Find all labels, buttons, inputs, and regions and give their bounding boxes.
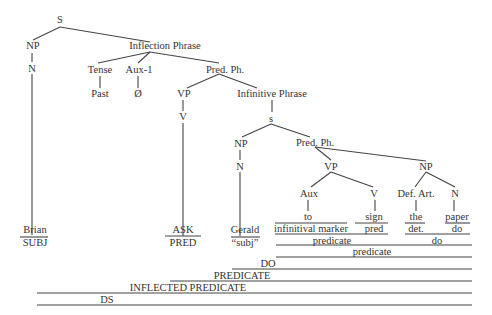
node-vp-2: VP <box>324 161 337 173</box>
leaf-role-infinitival-marker: infinitival marker <box>274 223 348 235</box>
leaf-word-brian: Brian <box>23 224 46 236</box>
node-aux-1: Aux-1 <box>126 64 153 76</box>
node-v-2: V <box>370 188 378 200</box>
leaf-role-pred: PRED <box>170 237 197 249</box>
leaf-word-gerald: Gerald <box>231 224 260 236</box>
node-s-root: S <box>57 14 63 26</box>
node-def-art: Def. Art. <box>397 188 434 200</box>
node-np-subject: NP <box>26 40 39 52</box>
node-null: Ø <box>134 88 142 100</box>
leaf-word-paper: paper <box>445 211 468 223</box>
bracket-ds: DS <box>100 294 113 306</box>
node-s-embedded: s <box>269 113 273 125</box>
bracket-predicate-upper: PREDICATE <box>214 270 271 282</box>
node-pred-ph-1: Pred. Ph. <box>206 64 244 76</box>
bracket-inflected-predicate: INFLECTED PREDICATE <box>130 282 246 294</box>
node-np-3: NP <box>419 161 432 173</box>
node-aux: Aux <box>300 188 318 200</box>
syntax-tree-diagram: S NP N Inflection Phrase Tense Aux-1 Pas… <box>0 0 492 315</box>
bracket-do-inner: do <box>432 235 443 247</box>
node-past: Past <box>91 88 109 100</box>
bracket-predicate-inner: predicate <box>313 235 351 247</box>
leaf-role-pred-lower: pred <box>365 223 384 235</box>
leaf-word-to: to <box>304 211 312 223</box>
leaf-word-the: the <box>410 211 423 223</box>
leaf-role-do: do <box>452 223 463 235</box>
node-n-3: N <box>451 188 459 200</box>
node-n-2: N <box>236 161 244 173</box>
leaf-role-subj: SUBJ <box>23 237 48 249</box>
node-v-1: V <box>179 111 187 123</box>
node-n-subject: N <box>28 63 36 75</box>
leaf-role-det: det. <box>408 223 423 235</box>
leaf-role-subj-quoted: “subj” <box>232 237 259 249</box>
node-inflection-phrase: Inflection Phrase <box>129 40 200 52</box>
leaf-word-sign: sign <box>365 211 383 223</box>
node-pred-ph-2: Pred. Ph. <box>296 137 334 149</box>
bracket-do-upper: DO <box>260 258 275 270</box>
leaf-word-ask: ASK <box>172 224 193 236</box>
bracket-predicate-outer: predicate <box>353 246 391 258</box>
node-vp-1: VP <box>177 88 190 100</box>
node-tense: Tense <box>88 64 112 76</box>
node-np-2: NP <box>234 138 247 150</box>
node-infinitive-phrase: Infinitive Phrase <box>237 88 307 100</box>
tree-edges <box>0 0 492 315</box>
